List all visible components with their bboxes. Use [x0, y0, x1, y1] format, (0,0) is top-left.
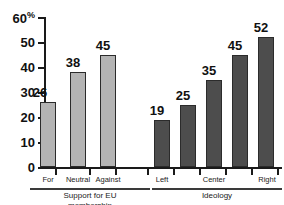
y-axis-label-60-text: 60 [13, 11, 27, 26]
y-tick-mark [38, 67, 45, 69]
x-tick-mark [251, 169, 253, 175]
group-rule-eu [30, 188, 150, 190]
x-tick-mark [55, 169, 57, 175]
y-axis-label-40: 40 [21, 61, 35, 74]
bar-chart: 60% 50 40 30 20 10 0 26 38 45 19 25 35 4… [0, 0, 284, 205]
x-tick-mark [147, 169, 149, 175]
category-label-for: For [36, 176, 60, 184]
y-tick-mark [38, 167, 45, 169]
bar-center-left [180, 105, 196, 167]
bar-right [258, 37, 274, 167]
bar-left [154, 120, 170, 167]
bar-value-left: 19 [145, 104, 169, 117]
x-axis-line [44, 167, 282, 169]
category-label-against: Against [90, 176, 126, 184]
category-label-right: Right [254, 176, 280, 184]
x-tick-mark [225, 169, 227, 175]
y-tick-mark [38, 42, 45, 44]
x-tick-mark [277, 169, 279, 175]
bar-center [206, 80, 222, 167]
y-axis-label-0: 0 [28, 161, 35, 174]
percent-sign: % [27, 10, 35, 20]
y-axis-label-20: 20 [21, 111, 35, 124]
category-label-left: Left [150, 176, 174, 184]
group-rule-ideology [152, 188, 282, 190]
bar-value-right: 52 [249, 21, 273, 34]
y-tick-mark [38, 17, 45, 19]
bar-value-center: 35 [197, 64, 221, 77]
y-axis-label-60: 60% [13, 11, 35, 25]
bar-value-for: 26 [28, 86, 52, 99]
bar-value-neutral: 38 [61, 56, 85, 69]
bar-value-center-left: 25 [171, 89, 195, 102]
y-axis-label-10: 10 [21, 136, 35, 149]
bar-value-against: 45 [91, 39, 115, 52]
group-label-ideology: Ideology [152, 191, 282, 201]
y-axis-label-50: 50 [21, 36, 35, 49]
group-label-eu: Support for EU membership [30, 191, 150, 205]
bar-neutral [70, 72, 86, 167]
bar-center-right [232, 55, 248, 167]
bar-for [40, 102, 56, 167]
bar-value-center-right: 45 [223, 39, 247, 52]
x-tick-mark [173, 169, 175, 175]
x-tick-mark [199, 169, 201, 175]
category-label-center: Center [196, 176, 232, 184]
bar-against [100, 55, 116, 167]
